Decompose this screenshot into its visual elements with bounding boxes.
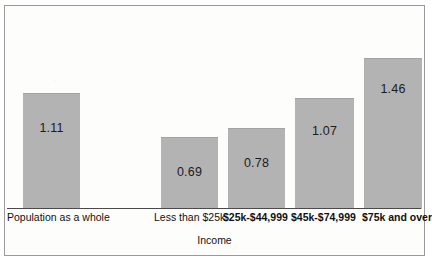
bar-group-75k-and-over: 1.46 [364,58,422,209]
bar-population-as-a-whole[interactable] [23,93,80,209]
x-axis-line [7,208,421,209]
x-axis-title: Income [5,234,424,246]
x-axis-category-labels: Population as a whole Less than $25k $25… [5,211,424,231]
bar-chart-figure: 1.11 0.69 0.78 1.07 1.46 Population as a… [4,5,425,256]
x-tick-label-25k-44999: $25k-$44,999 [223,211,288,223]
bar-value-label: 0.69 [161,165,218,179]
bar-group-45k-74999: 1.07 [295,98,354,209]
bar-value-label: 1.11 [23,121,80,135]
x-tick-label-less-than-25k: Less than $25k [154,211,225,223]
x-tick-label-45k-74999: $45k-$74,999 [291,211,356,223]
bar-value-label: 1.46 [364,82,422,96]
bar-value-label: 1.07 [295,124,354,138]
x-tick-label-75k-and-over: $75k and over [362,211,432,223]
bar-group-less-than-25k: 0.69 [161,137,218,209]
bar-75k-and-over[interactable] [364,58,422,209]
bar-value-label: 0.78 [228,156,285,170]
bar-45k-74999[interactable] [295,98,354,209]
x-tick-label-population-as-a-whole: Population as a whole [7,211,110,223]
bar-group-25k-44999: 0.78 [228,128,285,209]
bar-group-population-as-a-whole: 1.11 [23,93,80,209]
plot-area: 1.11 0.69 0.78 1.07 1.46 [5,6,424,209]
